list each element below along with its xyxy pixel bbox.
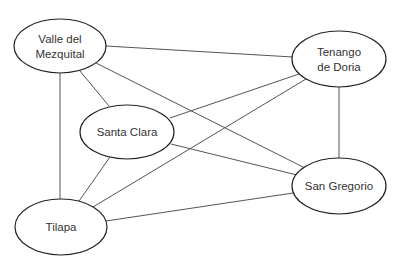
node-label: Valle del [38,33,81,45]
node-label: Tenango [317,46,361,58]
node-ti: Tilapa [15,199,107,255]
edge-vm-td [106,46,293,57]
edge-sc-sg [171,144,297,175]
node-ellipse [292,31,386,87]
node-sg: San Gregorio [292,158,386,214]
node-sc: Santa Clara [80,105,174,159]
nodes: Valle delMezquitalTenangode DoriaSanta C… [14,19,386,255]
node-label: Santa Clara [97,126,158,138]
edge-td-sc [170,74,299,118]
edge-ti-sg [106,193,293,221]
node-label: San Gregorio [305,180,373,192]
edge-sc-ti [79,157,110,201]
node-label: Mezquital [35,48,84,60]
node-vm: Valle delMezquital [14,19,106,73]
node-ellipse [14,19,106,73]
node-label: de Doria [317,61,361,73]
edge-vm-sc [80,71,109,106]
node-label: Tilapa [46,221,77,233]
network-diagram: Valle delMezquitalTenangode DoriaSanta C… [0,0,398,266]
node-td: Tenangode Doria [292,31,386,87]
